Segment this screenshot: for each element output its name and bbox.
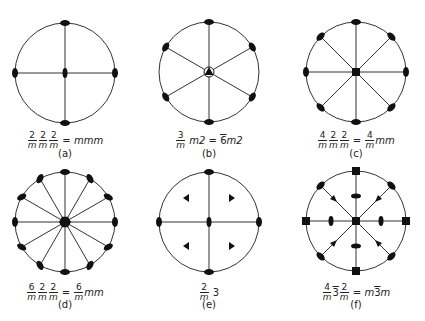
sixfold-rotoinversion-icon [204,67,214,77]
panel-label-c: (c) [286,149,425,159]
panel-label-d: (d) [0,300,135,310]
stereogram-figure [0,0,425,321]
panel-label-a: (a) [0,149,135,159]
panel-label-f: (f) [286,300,425,310]
panel-label-e: (e) [139,300,279,310]
sixfold-axis-icon [59,217,71,227]
panel-label-b: (b) [139,149,279,159]
fourfold-axis-icon [352,68,360,76]
